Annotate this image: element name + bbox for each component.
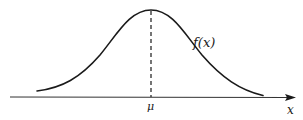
normal-distribution-diagram: f(x) μ x [0,0,303,120]
curve-label: f(x) [193,36,215,49]
bell-curve [37,10,263,96]
x-axis-line [10,97,292,98]
axis-label: x [287,104,294,116]
mean-label: μ [147,101,154,112]
